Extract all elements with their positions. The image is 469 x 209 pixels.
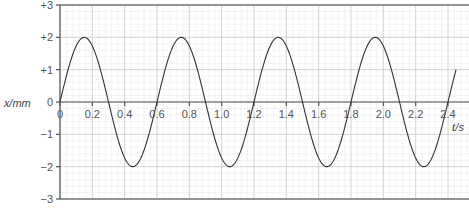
x-tick-label: 1.8 [343, 108, 358, 120]
y-tick-label: 0 [47, 96, 53, 108]
x-tick-label: 2.2 [408, 108, 423, 120]
y-tick-label: −2 [40, 161, 53, 173]
x-tick-label: 0.2 [85, 108, 100, 120]
x-tick-label: 1.6 [311, 108, 326, 120]
y-axis-unit: /mm [8, 97, 30, 109]
y-tick-label: +3 [40, 0, 53, 11]
y-axis-label: x/mm [3, 96, 31, 110]
x-tick-label: 0.8 [182, 108, 197, 120]
x-tick-label: 2.0 [376, 108, 391, 120]
x-tick-label: 1.0 [214, 108, 229, 120]
x-tick-label: 0.6 [149, 108, 164, 120]
y-tick-label: +1 [40, 64, 53, 76]
x-axis-label: t/s [452, 120, 464, 134]
x-tick-label: 1.4 [279, 108, 294, 120]
x-tick-label: 2.4 [440, 108, 455, 120]
axes [60, 5, 469, 199]
x-tick-label: 0.4 [117, 108, 132, 120]
y-tick-label: +2 [40, 31, 53, 43]
x-tick-label: 0 [57, 108, 63, 120]
x-tick-label: 1.2 [246, 108, 261, 120]
y-tick-label: −1 [40, 128, 53, 140]
displacement-time-chart: +3+2+10−1−2−300.20.40.60.81.01.21.41.61.… [0, 0, 469, 209]
x-axis-unit: /s [454, 121, 464, 133]
y-tick-label: −3 [40, 193, 53, 205]
